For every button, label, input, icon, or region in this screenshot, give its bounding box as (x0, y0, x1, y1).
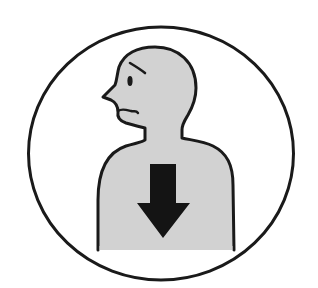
sad-person-pictogram: Worried person in profile with a downwar… (0, 0, 318, 288)
torso-bottom-fill (100, 246, 233, 250)
eye-icon (127, 76, 132, 86)
pictogram-canvas (0, 0, 318, 288)
